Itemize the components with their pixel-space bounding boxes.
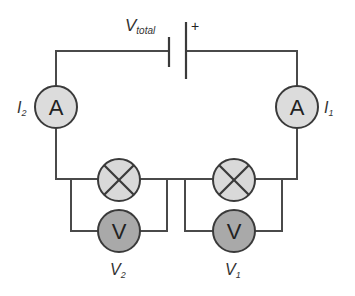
wires — [55, 50, 298, 231]
battery-polarity: + — [191, 18, 199, 34]
voltmeter-left: V V2 — [98, 210, 140, 280]
ammeter-right: A I1 — [276, 86, 333, 128]
voltmeter-left-symbol: V — [112, 219, 127, 244]
wire-v2-right — [140, 179, 167, 231]
wire-v1-left — [185, 179, 213, 231]
voltmeter-left-label: V2 — [110, 261, 126, 280]
wire-v1-right — [255, 179, 282, 231]
ammeter-right-label: I1 — [324, 99, 333, 118]
voltmeter-right-symbol: V — [227, 219, 242, 244]
battery-label: Vtotal — [125, 16, 156, 36]
voltmeter-right: V V1 — [213, 210, 255, 280]
voltmeter-right-label: V1 — [225, 261, 241, 280]
battery: + Vtotal — [125, 16, 199, 79]
circuit-diagram: + Vtotal A I2 A I1 V V2 V — [0, 0, 355, 296]
wire-v2-left — [71, 179, 98, 231]
ammeter-left: A I2 — [17, 86, 77, 128]
bulb-right — [213, 159, 255, 201]
ammeter-left-label: I2 — [17, 99, 26, 118]
ammeter-right-symbol: A — [290, 95, 305, 120]
bulb-left — [98, 159, 140, 201]
ammeter-left-symbol: A — [49, 95, 64, 120]
